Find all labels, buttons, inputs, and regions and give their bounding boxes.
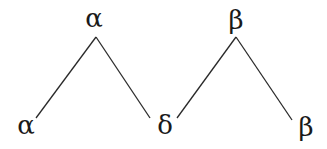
tree-diagram-svg: α β α δ β: [0, 0, 327, 149]
edge-alpha-to-alpha: [36, 37, 96, 118]
root-node-beta: β: [228, 5, 243, 35]
leaf-node-delta: δ: [157, 110, 173, 140]
root-node-alpha: α: [85, 3, 103, 33]
edge-beta-to-beta: [236, 37, 292, 120]
tree-diagram: α β α δ β: [0, 0, 327, 149]
leaf-node-beta: β: [298, 112, 313, 142]
edge-beta-to-delta: [177, 37, 236, 118]
leaf-node-alpha: α: [17, 110, 35, 140]
edge-alpha-to-delta: [96, 37, 150, 118]
